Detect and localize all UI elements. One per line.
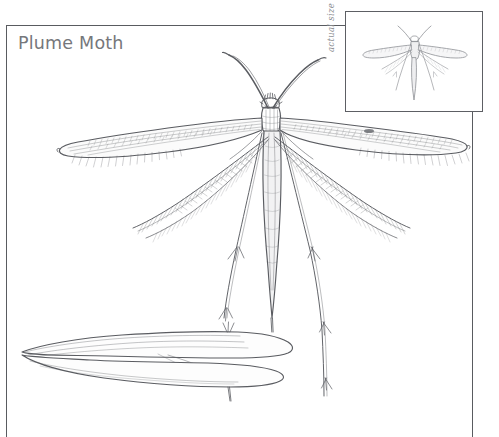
- inset-plume-moth-illustration: [346, 12, 484, 113]
- illustration-page: Plume Moth: [0, 0, 499, 437]
- actual-size-label: actual size: [326, 0, 338, 52]
- actual-size-inset-box: [345, 11, 483, 112]
